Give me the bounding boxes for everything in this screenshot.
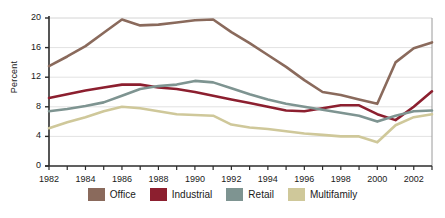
x-tick-label: 1982 [32,174,66,184]
y-tick-label: 16 [19,42,41,52]
y-tick-label: 12 [19,71,41,81]
x-tick-label: 1992 [214,174,248,184]
chart-legend: OfficeIndustrialRetailMultifamily [0,188,445,201]
x-tick-label: 1994 [251,174,285,184]
legend-swatch-icon [150,188,167,201]
legend-item-industrial[interactable]: Industrial [150,188,213,201]
legend-item-office[interactable]: Office [88,188,136,201]
x-tick-label: 1998 [324,174,358,184]
y-tick-label: 0 [19,160,41,170]
legend-item-multifamily[interactable]: Multifamily [288,188,357,201]
legend-swatch-icon [88,188,105,201]
y-tick-label: 4 [19,130,41,140]
x-tick-label: 1986 [105,174,139,184]
x-tick-label: 1988 [141,174,175,184]
line-chart: Percent 048121620 1982198419861988199019… [0,0,445,218]
legend-label: Retail [248,189,274,200]
legend-item-retail[interactable]: Retail [226,188,274,201]
legend-swatch-icon [226,188,243,201]
y-tick-label: 20 [19,12,41,22]
x-tick-label: 1984 [68,174,102,184]
legend-label: Multifamily [310,189,357,200]
legend-swatch-icon [288,188,305,201]
legend-label: Industrial [172,189,213,200]
x-tick-label: 2000 [360,174,394,184]
x-tick-label: 1996 [287,174,321,184]
legend-label: Office [110,189,136,200]
y-tick-label: 8 [19,101,41,111]
x-tick-label: 2002 [397,174,431,184]
plot-area [0,0,445,218]
x-tick-label: 1990 [178,174,212,184]
